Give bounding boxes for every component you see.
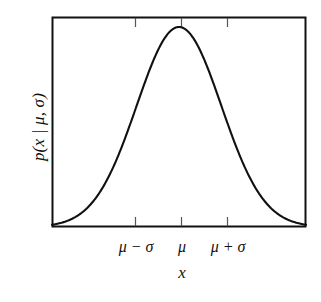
x-tick-label-mu: μ bbox=[178, 236, 186, 258]
gaussian-curve bbox=[52, 27, 306, 225]
x-tick-label-mu-minus-sigma: μ − σ bbox=[119, 236, 154, 258]
plot-frame bbox=[53, 18, 306, 227]
x-tick-label-mu-plus-sigma: μ + σ bbox=[211, 236, 246, 258]
x-axis-label: x bbox=[178, 262, 186, 284]
bottom-axis-ticks bbox=[136, 217, 228, 226]
gaussian-distribution-figure: p(x | μ, σ) μ − σ μ μ + σ x bbox=[0, 0, 321, 302]
plot-canvas bbox=[0, 0, 321, 302]
top-axis-ticks bbox=[136, 18, 228, 27]
